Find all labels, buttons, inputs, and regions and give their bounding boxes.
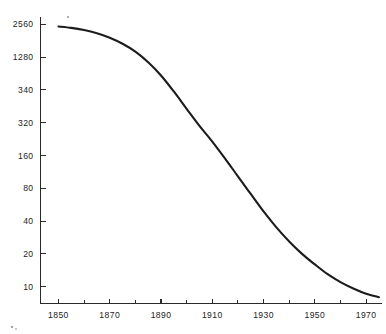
y-tick-label: 1280: [13, 52, 34, 62]
scan-artifacts: [11, 16, 69, 330]
x-tick-label: 1910: [202, 310, 223, 320]
scan-speck: [67, 16, 69, 18]
scan-speck: [15, 328, 17, 330]
y-axis-ticks: [41, 24, 46, 286]
y-tick-label: 320: [18, 118, 34, 128]
y-tick-label: 80: [23, 183, 33, 193]
x-tick-label: 1870: [99, 310, 120, 320]
x-axis-ticks: [58, 299, 366, 304]
y-tick-label: 40: [23, 216, 33, 226]
data-series-group: [58, 26, 378, 297]
line-chart: 1020408016032034012802560 18501870189019…: [0, 0, 386, 334]
scan-speck: [11, 326, 13, 328]
y-tick-label: 2560: [13, 19, 34, 29]
y-axis-tick-labels: 1020408016032034012802560: [13, 19, 34, 291]
y-tick-label: 160: [18, 151, 34, 161]
y-tick-label: 340: [18, 85, 34, 95]
x-tick-label: 1850: [48, 310, 69, 320]
x-tick-label: 1890: [151, 310, 172, 320]
x-tick-label: 1930: [253, 310, 274, 320]
x-tick-label: 1950: [304, 310, 325, 320]
x-tick-label: 1970: [356, 310, 377, 320]
chart-container: 1020408016032034012802560 18501870189019…: [0, 0, 386, 334]
data-curve-line: [58, 26, 378, 297]
axes-group: [41, 17, 382, 304]
y-tick-label: 20: [23, 249, 33, 259]
y-tick-label: 10: [23, 282, 33, 292]
x-axis-tick-labels: 1850187018901910193019501970: [48, 310, 376, 320]
